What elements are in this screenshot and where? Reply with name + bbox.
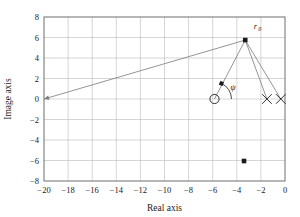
x-tick-label: −18 <box>61 185 74 195</box>
annotation-r0-subscript: 0 <box>258 26 261 32</box>
x-tick-label: −20 <box>37 185 50 195</box>
x-axis-title: Real axis <box>147 203 182 213</box>
x-tick-label: 0 <box>283 185 287 195</box>
annotation-psi: ψ <box>230 82 236 92</box>
y-tick-label: 8 <box>35 12 39 22</box>
x-tick-label: −4 <box>232 185 242 195</box>
y-tick-label: 2 <box>35 74 39 84</box>
y-tick-label: 0 <box>35 94 39 104</box>
x-tick-label: −8 <box>184 185 193 195</box>
x-tick-label: −16 <box>86 185 99 195</box>
y-axis-title: Image axis <box>3 78 13 120</box>
y-tick-label: −4 <box>30 135 40 145</box>
x-tick-label: −14 <box>110 185 124 195</box>
x-tick-label: −6 <box>208 185 217 195</box>
x-tick-label: −2 <box>256 185 265 195</box>
y-tick-label: 6 <box>35 33 39 43</box>
x-tick-label: −10 <box>158 185 171 195</box>
x-tick-label: −12 <box>134 185 147 195</box>
marker-design-point <box>243 38 248 43</box>
marker-lower-point <box>242 159 247 164</box>
y-tick-label: −6 <box>30 156 39 166</box>
chart-svg: −20−18−16−14−12−10−8−6−4−20−8−6−4−202468… <box>0 0 300 217</box>
y-tick-label: −8 <box>30 176 39 186</box>
root-locus-chart: −20−18−16−14−12−10−8−6−4−20−8−6−4−202468… <box>0 0 300 217</box>
y-tick-label: −2 <box>30 115 39 125</box>
